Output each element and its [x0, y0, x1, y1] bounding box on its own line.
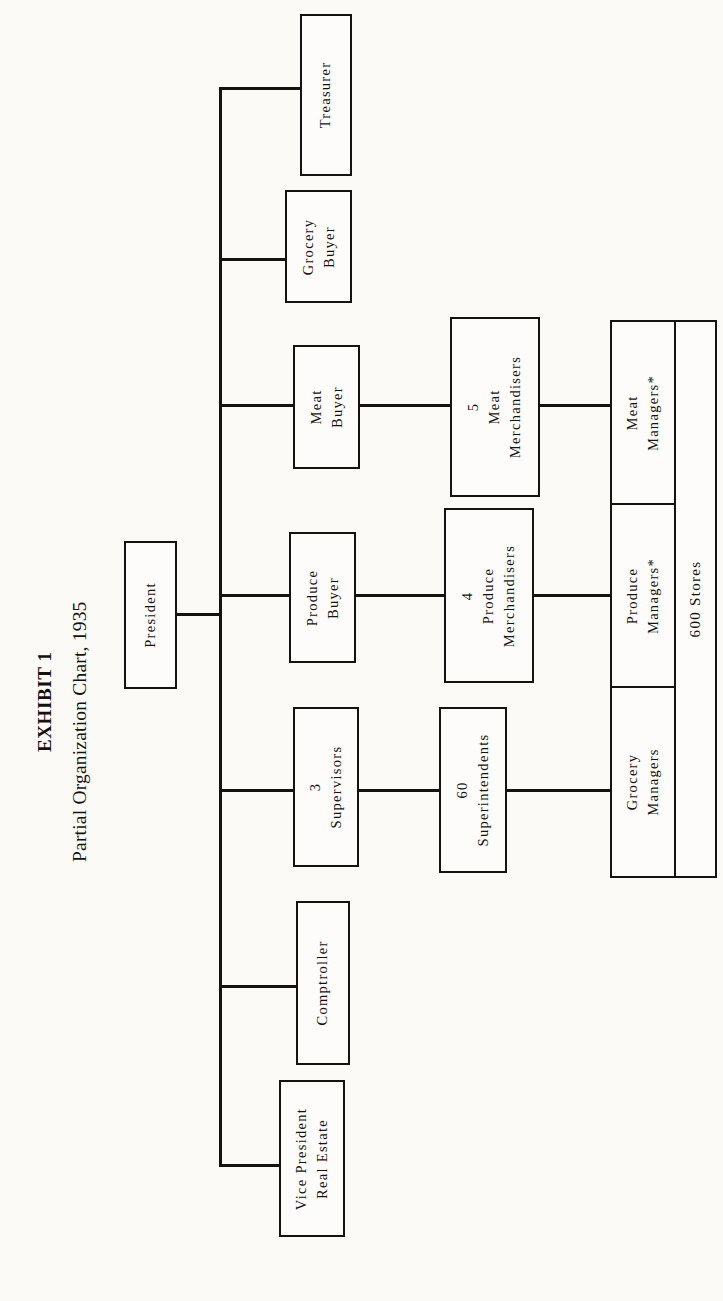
connector-spine-to-meat-buyer [219, 404, 295, 407]
node-vp-real-estate-label: Vice President Real Estate [291, 1107, 333, 1209]
node-grocery-buyer[interactable]: Grocery Buyer [285, 190, 352, 303]
node-produce-managers-line1: Produce [624, 567, 640, 624]
node-produce-buyer-line1: Produce [303, 569, 319, 626]
connector-meat-merchandisers-to-meat-managers [540, 404, 614, 407]
node-president-label: President [140, 582, 161, 648]
node-superintendents[interactable]: 60 Superintendents [439, 707, 507, 873]
node-vp-real-estate-line1: Vice President [293, 1107, 309, 1209]
connector-spine-to-comptroller [219, 985, 299, 988]
node-meat-managers-line1: Meat [624, 395, 640, 430]
connector-superintendents-to-grocery-managers [507, 789, 614, 792]
node-produce-merchandisers-line1: 4 [459, 591, 475, 600]
node-meat-merchandisers-line2: Meat [486, 390, 502, 425]
node-meat-buyer-line1: Meat [307, 390, 323, 425]
node-meat-buyer-line2: Buyer [329, 386, 345, 428]
connector-spine-to-supervisors [219, 789, 295, 792]
node-produce-managers-line2: Managers* [645, 557, 661, 633]
connector-produce-buyer-to-produce-merchandisers [356, 594, 446, 597]
node-superintendents-label: 60 Superintendents [452, 734, 494, 847]
node-supervisors[interactable]: 3 Supervisors [293, 707, 359, 867]
node-grocery-buyer-label: Grocery Buyer [297, 218, 339, 275]
node-comptroller-label: Comptroller [312, 940, 333, 1025]
node-grocery-buyer-line2: Buyer [321, 226, 337, 268]
connector-spine-to-treasurer [219, 87, 302, 90]
node-meat-buyer-label: Meat Buyer [305, 386, 347, 428]
node-grocery-buyer-line1: Grocery [299, 218, 315, 275]
node-vp-real-estate-line2: Real Estate [314, 1119, 330, 1199]
node-meat-merchandisers-line1: 5 [465, 403, 481, 412]
node-supervisors-label: 3 Supervisors [305, 746, 347, 829]
node-president[interactable]: President [124, 541, 177, 689]
node-produce-merchandisers-line2: Produce [480, 567, 496, 624]
node-produce-managers-label: Produce Managers* [622, 557, 664, 633]
node-superintendents-line1: 60 [454, 781, 470, 798]
node-vp-real-estate[interactable]: Vice President Real Estate [279, 1080, 345, 1237]
node-meat-merchandisers[interactable]: 5 Meat Merchandisers [450, 317, 540, 497]
node-treasurer[interactable]: Treasurer [300, 14, 352, 176]
node-supervisors-line1: 3 [307, 783, 323, 792]
node-grocery-managers-line2: Managers [645, 748, 661, 816]
node-produce-merchandisers[interactable]: 4 Produce Merchandisers [444, 508, 534, 683]
node-grocery-managers-line1: Grocery [624, 754, 640, 811]
node-600-stores-label: 600 Stores [685, 561, 707, 638]
node-meat-managers-label: Meat Managers* [622, 374, 664, 450]
node-comptroller[interactable]: Comptroller [296, 901, 350, 1065]
node-meat-managers[interactable]: Meat Managers* [610, 320, 676, 505]
node-produce-buyer-line2: Buyer [325, 577, 341, 619]
node-superintendents-line2: Superintendents [475, 734, 491, 847]
connector-produce-merchandisers-to-produce-managers [534, 594, 614, 597]
connector-spine-vertical [219, 87, 222, 1167]
node-600-stores[interactable]: 600 Stores [674, 320, 717, 878]
connector-supervisors-to-superintendents [359, 789, 441, 792]
exhibit-label: EXHIBIT 1 [34, 651, 56, 752]
node-meat-managers-line2: Managers* [645, 374, 661, 450]
node-meat-merchandisers-line3: Merchandisers [508, 356, 524, 458]
node-produce-buyer-label: Produce Buyer [301, 569, 343, 626]
connector-meat-buyer-to-meat-merchandisers [360, 404, 452, 407]
node-grocery-managers[interactable]: Grocery Managers [610, 686, 676, 878]
connector-spine-to-grocery-buyer [219, 258, 287, 261]
node-produce-buyer[interactable]: Produce Buyer [289, 532, 356, 663]
connector-spine-to-vp-real-estate [219, 1164, 281, 1167]
node-meat-buyer[interactable]: Meat Buyer [293, 345, 360, 469]
connector-president-to-spine [177, 613, 222, 616]
node-produce-merchandisers-line3: Merchandisers [502, 544, 518, 646]
document-page: EXHIBIT 1 Partial Organization Chart, 19… [0, 0, 723, 1301]
connector-spine-to-produce-buyer [219, 594, 291, 597]
node-treasurer-label: Treasurer [315, 62, 336, 129]
page-title: Partial Organization Chart, 1935 [69, 601, 91, 862]
node-produce-managers[interactable]: Produce Managers* [610, 503, 676, 688]
node-grocery-managers-label: Grocery Managers [622, 748, 664, 816]
node-supervisors-line2: Supervisors [328, 746, 344, 829]
node-meat-merchandisers-label: 5 Meat Merchandisers [463, 356, 526, 458]
node-produce-merchandisers-label: 4 Produce Merchandisers [457, 544, 520, 646]
